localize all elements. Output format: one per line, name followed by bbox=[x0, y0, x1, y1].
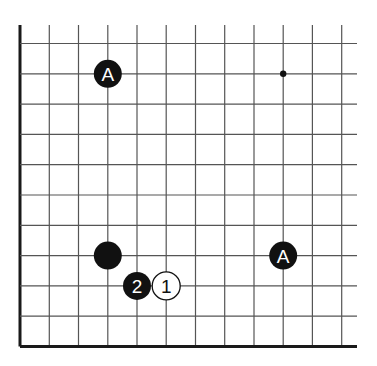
stone-black-plain bbox=[94, 242, 122, 270]
stone-label: 2 bbox=[132, 276, 143, 297]
stone-move-1: 1 bbox=[152, 272, 180, 300]
star-point-icon bbox=[280, 71, 286, 77]
stone-a-top: A bbox=[94, 60, 122, 88]
stone-label: 1 bbox=[161, 276, 172, 297]
black-stone-icon bbox=[94, 242, 122, 270]
go-board: A21A bbox=[0, 0, 377, 366]
stone-a-right: A bbox=[269, 242, 297, 270]
stone-label: A bbox=[277, 246, 290, 267]
stone-label: A bbox=[101, 64, 114, 85]
stone-move-2: 2 bbox=[123, 272, 151, 300]
star-points bbox=[280, 71, 286, 77]
grid-lines bbox=[20, 25, 357, 347]
